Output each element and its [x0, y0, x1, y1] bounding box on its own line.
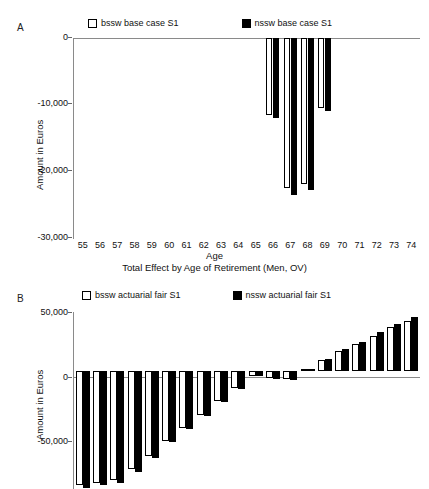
- bar-b-open-age-64: [231, 371, 238, 388]
- bar-b-filled-age-63: [221, 371, 228, 402]
- legend-swatch-open-icon: [88, 19, 97, 28]
- bar-b-open-age-55: [76, 371, 83, 485]
- bar-b-open-age-56: [93, 371, 100, 483]
- bar-b-filled-age-68: [308, 369, 315, 371]
- bar-b-filled-age-71: [359, 342, 366, 372]
- bar-b-open-age-73: [387, 327, 394, 371]
- legend-label-nssw-base: nssw base case S1: [255, 18, 333, 28]
- bar-b-filled-age-59: [152, 371, 159, 458]
- bar-b-filled-age-65: [256, 371, 263, 376]
- bar-b-filled-age-64: [238, 371, 245, 389]
- panel-a-ytick-0: 0: [36, 32, 68, 42]
- panel-b: B bssw actuarial fair S1 nssw actuarial …: [0, 280, 429, 489]
- bar-b-filled-age-60: [169, 371, 176, 442]
- bar-b-filled-age-69: [325, 359, 332, 371]
- bar-b-filled-age-74: [411, 317, 418, 371]
- legend-entry-bssw-fair: bssw actuarial fair S1: [82, 290, 181, 300]
- bar-b-open-age-61: [179, 371, 186, 428]
- bar-b-filled-age-72: [377, 332, 384, 371]
- legend-entry-nssw-base: nssw base case S1: [242, 18, 333, 28]
- bar-b-open-age-62: [197, 371, 204, 415]
- bar-a-open-age-67: [284, 38, 290, 188]
- bar-a-filled-age-68: [308, 38, 314, 190]
- bar-b-open-age-69: [318, 360, 325, 371]
- panel-a-legend: bssw base case S1 nssw base case S1: [88, 18, 332, 28]
- bar-b-filled-age-58: [135, 371, 142, 472]
- bar-b-open-age-74: [404, 321, 411, 371]
- panel-a-xtick-74: 74: [401, 240, 421, 250]
- bar-b-filled-age-55: [83, 371, 90, 488]
- bar-a-open-age-68: [301, 38, 307, 184]
- legend-label-bssw-fair: bssw actuarial fair S1: [95, 290, 181, 300]
- bar-b-open-age-59: [145, 371, 152, 456]
- panel-b-legend: bssw actuarial fair S1 nssw actuarial fa…: [82, 290, 331, 300]
- panel-b-plot-area: [74, 312, 420, 489]
- bar-b-open-age-63: [214, 371, 221, 401]
- figure-root: A bssw base case S1 nssw base case S1 Am…: [0, 0, 429, 489]
- bar-b-open-age-58: [128, 371, 135, 469]
- legend-entry-nssw-fair: nssw actuarial fair S1: [233, 290, 332, 300]
- panel-a-letter: A: [17, 22, 24, 33]
- legend-swatch-filled-icon: [242, 19, 251, 28]
- panel-b-letter: B: [17, 293, 24, 304]
- bar-b-filled-age-61: [186, 371, 193, 429]
- bar-b-open-age-68: [301, 369, 308, 371]
- bar-b-filled-age-66: [273, 371, 280, 379]
- bar-b-filled-age-56: [100, 371, 107, 485]
- panel-a-ytick-1: -10,000: [20, 98, 68, 108]
- panel-a-caption: Total Effect by Age of Retirement (Men, …: [0, 262, 429, 273]
- panel-a-x-axis-label: Age: [0, 250, 429, 261]
- panel-a: A bssw base case S1 nssw base case S1 Am…: [0, 0, 429, 280]
- bar-b-open-age-60: [162, 371, 169, 441]
- legend-entry-bssw-base: bssw base case S1: [88, 18, 179, 28]
- panel-a-ytick-3: -30,000: [20, 232, 68, 242]
- panel-b-ytick-1: 0: [36, 372, 68, 382]
- panel-a-y-axis-label: Amount in Euros: [34, 120, 45, 190]
- legend-swatch-open-icon: [82, 291, 91, 300]
- panel-b-ytick-2: -50,000: [20, 436, 68, 446]
- bar-a-open-age-69: [318, 38, 324, 108]
- bar-a-filled-age-69: [325, 38, 331, 111]
- bar-b-open-age-70: [335, 351, 342, 371]
- legend-label-bssw-base: bssw base case S1: [101, 18, 179, 28]
- bar-a-open-age-66: [266, 38, 272, 115]
- panel-b-ytick-0: 50,000: [22, 307, 68, 317]
- bar-b-filled-age-70: [342, 349, 349, 371]
- legend-swatch-filled-icon: [233, 291, 242, 300]
- bar-b-filled-age-67: [290, 371, 297, 380]
- panel-a-ytick-2: -20,000: [20, 165, 68, 175]
- panel-a-plot-area: [74, 38, 420, 239]
- bar-a-filled-age-66: [273, 38, 279, 118]
- bar-b-open-age-67: [283, 371, 290, 379]
- bar-b-open-age-66: [266, 371, 273, 378]
- bar-b-open-age-72: [370, 336, 377, 371]
- bar-b-filled-age-62: [204, 371, 211, 416]
- legend-label-nssw-fair: nssw actuarial fair S1: [246, 290, 332, 300]
- bar-b-filled-age-73: [394, 324, 401, 371]
- bar-b-open-age-57: [110, 371, 117, 480]
- bar-b-open-age-65: [249, 371, 256, 376]
- bar-b-filled-age-57: [117, 371, 124, 483]
- bar-b-open-age-71: [352, 344, 359, 371]
- bar-a-filled-age-67: [291, 38, 297, 195]
